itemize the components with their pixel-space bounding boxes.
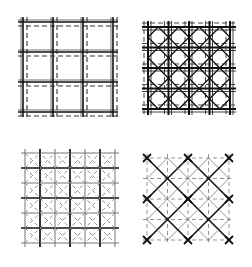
diagonal-line: [148, 27, 199, 78]
panel-offset-grid-with-dashed-diagonals: [21, 149, 119, 247]
panel-diagonal-grid-with-dashed-orthogonals: [143, 154, 233, 244]
dashed-diagonal-line: [100, 228, 115, 243]
dashed-diagonal-line: [100, 153, 115, 168]
diagonal-line: [179, 58, 230, 109]
diagonal-line: [220, 27, 230, 37]
panel-orthogonal-grid-with-diagonals: [142, 21, 236, 115]
diagram-canvas: [0, 0, 252, 267]
diagonal-line: [148, 58, 199, 109]
diagonal-line: [148, 99, 158, 109]
diagonal-line: [220, 99, 230, 109]
panel-orthogonal-double-grid: [18, 17, 118, 117]
diagonal-line: [179, 27, 230, 78]
diagonal-line: [148, 27, 158, 37]
